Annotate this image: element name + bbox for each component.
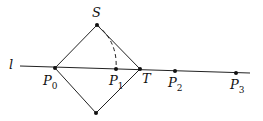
diagram: l S P0 P1 T P2 P3 (0, 0, 263, 121)
point-p2 (173, 69, 177, 73)
point-p0 (53, 66, 57, 70)
point-p3 (234, 71, 238, 75)
label-p3: P3 (230, 78, 244, 95)
label-p1: P1 (109, 74, 123, 91)
point-bottom (94, 111, 98, 115)
dashed-arc (97, 25, 116, 69)
label-p2: P2 (168, 76, 182, 93)
label-t: T (142, 72, 151, 85)
point-s (95, 23, 99, 27)
label-l: l (9, 58, 13, 71)
label-s: S (92, 6, 101, 19)
diagram-canvas (0, 0, 263, 121)
label-p0: P0 (43, 74, 57, 91)
point-p1 (114, 67, 118, 71)
